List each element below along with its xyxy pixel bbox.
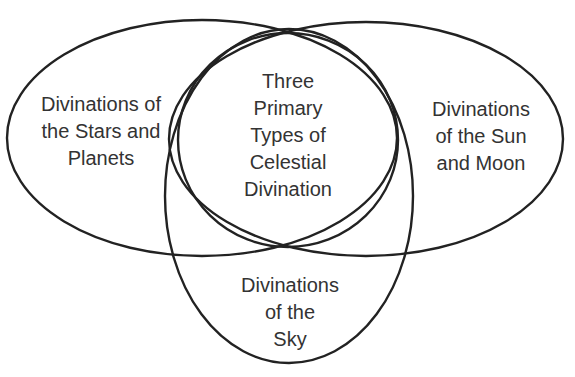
label-line: and Moon (410, 150, 552, 177)
label-stars-planets: Divinations of the Stars and Planets (16, 91, 186, 172)
label-line: Divination (198, 176, 378, 203)
label-line: of the Sun (410, 123, 552, 150)
label-center-title: Three Primary Types of Celestial Divinat… (198, 68, 378, 203)
label-line: Divinations (410, 96, 552, 123)
label-line: the Stars and (16, 118, 186, 145)
label-line: Divinations of (16, 91, 186, 118)
label-line: Sky (210, 326, 370, 353)
label-line: Three (198, 68, 378, 95)
label-sky: Divinations of the Sky (210, 272, 370, 353)
label-line: of the (210, 299, 370, 326)
label-sun-moon: Divinations of the Sun and Moon (410, 96, 552, 177)
label-line: Divinations (210, 272, 370, 299)
venn-diagram: Divinations of the Stars and Planets Thr… (0, 0, 575, 377)
label-line: Celestial (198, 149, 378, 176)
label-line: Planets (16, 145, 186, 172)
label-line: Types of (198, 122, 378, 149)
label-line: Primary (198, 95, 378, 122)
